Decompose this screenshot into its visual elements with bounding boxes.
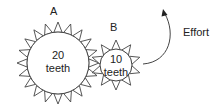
gear-b-label: B bbox=[110, 22, 117, 33]
gear-b-teeth-text: 10 teeth bbox=[101, 54, 131, 78]
effort-label: Effort bbox=[183, 27, 209, 38]
gear-a-teeth-count: 20 bbox=[38, 50, 78, 61]
gear-a-label: A bbox=[50, 6, 57, 17]
effort-arrow bbox=[143, 14, 170, 64]
gear-a-teeth-text: 20 teeth bbox=[38, 50, 78, 74]
gear-tooth bbox=[54, 94, 62, 104]
gear-a-teeth-word: teeth bbox=[38, 63, 78, 74]
gear-tooth bbox=[54, 22, 62, 32]
arrowhead-icon bbox=[162, 9, 168, 17]
gear-tooth bbox=[112, 40, 120, 50]
gear-b-teeth-word: teeth bbox=[101, 67, 131, 78]
gear-tooth bbox=[17, 59, 27, 67]
gear-tooth bbox=[112, 80, 120, 90]
gear-b-teeth-count: 10 bbox=[101, 54, 131, 65]
